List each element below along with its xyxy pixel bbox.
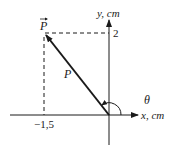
y-component-value: 2 (113, 27, 119, 39)
x-axis-label: x, cm (140, 109, 164, 121)
svg-text:P: P (39, 19, 48, 33)
magnitude-label: P (63, 67, 72, 81)
y-axis-label: y, cm (96, 7, 120, 19)
vector-p-arrow (46, 35, 109, 115)
vector-diagram: y, cm 2 x, cm −1,5 P P θ (0, 0, 175, 151)
x-component-value: −1,5 (34, 118, 54, 130)
angle-label: θ (144, 93, 150, 107)
vector-p-label: P (39, 18, 48, 34)
